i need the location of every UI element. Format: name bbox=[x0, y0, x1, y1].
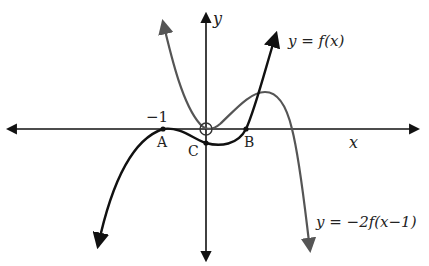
point-label-B: B bbox=[244, 134, 254, 150]
point-label-C: C bbox=[188, 143, 199, 159]
point-C bbox=[203, 140, 208, 145]
y-axis-label: y bbox=[212, 9, 223, 28]
curve-g bbox=[163, 22, 310, 250]
point-label-A: A bbox=[156, 134, 168, 150]
point-A bbox=[160, 126, 165, 131]
curve-f-label: y = f(x) bbox=[287, 32, 344, 50]
curve-g-label: y = −2f(x−1) bbox=[315, 213, 417, 231]
tick-label-minus-one: −1 bbox=[146, 108, 168, 126]
function-graph: y x −1 A C B y = f(x) y = −2f(x−1) bbox=[0, 0, 429, 266]
point-B bbox=[243, 126, 248, 131]
x-axis-label: x bbox=[349, 133, 358, 152]
